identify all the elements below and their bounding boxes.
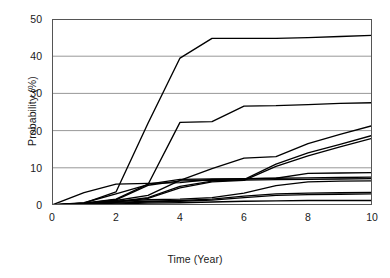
- plot-area: [52, 19, 372, 205]
- probability-time-line-chart: Probability (%) Time (Year) 01020304050 …: [0, 0, 390, 278]
- x-tick-label-10: 10: [357, 212, 387, 223]
- data-curves: [52, 35, 372, 205]
- y-tick-label-10: 10: [2, 163, 42, 174]
- axis-frame: [53, 20, 372, 205]
- x-tick-label-4: 4: [165, 212, 195, 223]
- y-tick-label-40: 40: [2, 51, 42, 62]
- plot-border: [53, 20, 372, 205]
- x-tick-label-0: 0: [37, 212, 67, 223]
- x-tick-label-6: 6: [229, 212, 259, 223]
- y-tick-label-20: 20: [2, 126, 42, 137]
- y-tick-label-0: 0: [2, 200, 42, 211]
- x-tick-label-8: 8: [293, 212, 323, 223]
- chart-canvas: [52, 19, 372, 205]
- x-tick-label-2: 2: [101, 212, 131, 223]
- y-tick-label-30: 30: [2, 88, 42, 99]
- y-tick-label-50: 50: [2, 14, 42, 25]
- x-axis-title: Time (Year): [0, 253, 390, 265]
- gridlines: [52, 19, 372, 168]
- series-curve-2: [52, 103, 372, 205]
